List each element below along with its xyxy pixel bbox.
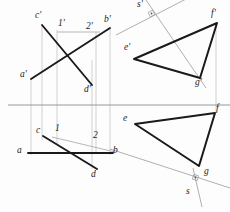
axis-s [110, 149, 230, 188]
right-angle-marks [148, 10, 199, 181]
triangle-efg-front [134, 23, 217, 78]
label-b-prime: b' [104, 15, 111, 25]
label-e: e [123, 114, 127, 124]
label-f: f [216, 104, 219, 114]
label-f-prime: f' [211, 9, 216, 19]
label-one: 1 [55, 124, 60, 134]
label-g: g [204, 167, 209, 177]
triangle-efg-top [135, 113, 215, 166]
diagram-canvas: c' 1' 2' b' a' d' c 1 2 a b d s' e' f' g… [0, 0, 230, 212]
label-a-prime: a' [20, 70, 27, 80]
intersection-dot-s-prime [151, 13, 153, 15]
label-c: c [36, 126, 40, 136]
intersection-dot-s [195, 177, 197, 179]
label-d-prime: d' [84, 85, 91, 95]
chord-one-two [52, 137, 115, 152]
label-e-prime: e' [124, 43, 130, 53]
label-two-prime: 2' [86, 22, 93, 32]
label-g-prime: g' [195, 78, 202, 88]
label-c-prime: c' [35, 11, 41, 21]
label-s-prime: s' [137, 0, 143, 10]
label-d: d [91, 170, 96, 180]
label-b: b [113, 146, 118, 156]
label-one-prime: 1' [58, 19, 65, 29]
axis-s-prime [116, 0, 188, 35]
label-a: a [17, 146, 22, 156]
ray-s-tick [193, 168, 202, 207]
geometry-drawing [0, 0, 230, 212]
ray-s-prime-through-g-prime [146, 0, 206, 88]
label-two: 2 [93, 131, 98, 141]
label-s: s [186, 187, 190, 197]
segment-a-prime-b-prime [31, 28, 110, 79]
heavy-lines [28, 25, 113, 169]
